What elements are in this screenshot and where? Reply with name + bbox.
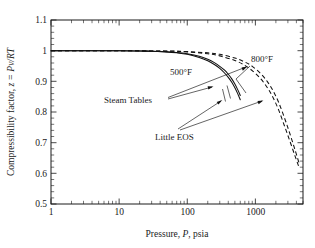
- annotation-800f: 800°F: [251, 54, 273, 64]
- ytick-label-0-9: 0.9: [35, 77, 47, 87]
- annotation-500f: 500°F: [170, 67, 192, 77]
- annotation-little-eos: Little EOS: [155, 132, 194, 142]
- ytick-label-0-6: 0.6: [35, 169, 47, 179]
- xtick-label-1: 1: [49, 207, 54, 217]
- ytick-label-0-8: 0.8: [35, 107, 47, 117]
- xtick-label-100: 100: [180, 207, 195, 217]
- ytick-label-1: 1: [42, 46, 47, 56]
- figure-container: 500°F 800°F Steam Tables Little EOS 0.5 …: [0, 0, 315, 248]
- ytick-label-0-7: 0.7: [35, 138, 47, 148]
- y-axis-label: Compressibility factor, z = Pv/RT: [6, 47, 16, 176]
- xtick-label-1000: 1000: [246, 207, 265, 217]
- xtick-label-10: 10: [115, 207, 125, 217]
- ytick-label-0-5: 0.5: [35, 199, 47, 209]
- y-axis-label-prefix: Compressibility factor,: [6, 87, 16, 177]
- plot-frame: [51, 20, 303, 204]
- x-axis-label: Pressure, P, psia: [146, 229, 210, 239]
- compressibility-chart: 500°F 800°F Steam Tables Little EOS 0.5 …: [0, 0, 315, 248]
- y-axis-label-var: z = Pv/RT: [6, 47, 16, 87]
- ytick-label-1-1: 1.1: [35, 15, 47, 25]
- x-axis-label-suffix: , psia: [188, 229, 209, 239]
- x-axis-label-prefix: Pressure,: [146, 229, 183, 239]
- annotation-steam-tables: Steam Tables: [104, 95, 152, 105]
